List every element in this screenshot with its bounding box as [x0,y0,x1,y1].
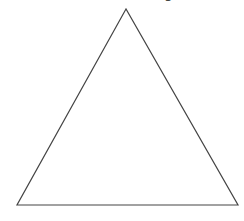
diagram-canvas: g [0,0,244,221]
triangle-shape [17,9,238,205]
cropped-label: g [164,0,173,1]
